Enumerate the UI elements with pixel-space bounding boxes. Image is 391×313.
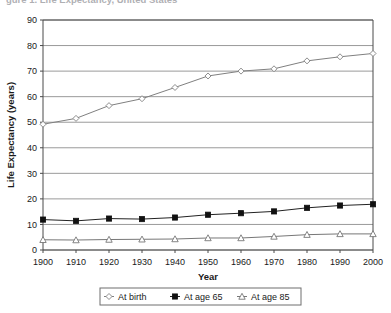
data-point-marker: [304, 58, 310, 64]
data-point-marker: [337, 203, 342, 208]
data-point-marker: [205, 212, 210, 217]
chart-legend: At birthAt age 65At age 85: [100, 288, 301, 305]
series-line: [43, 53, 373, 124]
y-tick-label: 60: [27, 92, 37, 102]
y-tick-label: 80: [27, 41, 37, 51]
y-axis-title: Life Expectancy (years): [5, 82, 16, 188]
x-tick-label: 1940: [165, 257, 185, 267]
series-at-birth: [40, 50, 376, 127]
data-point-marker: [73, 218, 78, 223]
x-tick-label: 1960: [231, 257, 251, 267]
axis-titles-group: Life Expectancy (years)Year: [5, 82, 218, 282]
data-point-marker: [370, 202, 375, 207]
y-tick-label: 40: [27, 143, 37, 153]
data-series-group: [40, 50, 376, 242]
x-axis-title: Year: [198, 271, 218, 282]
data-point-marker: [106, 216, 111, 221]
chart-svg: 0102030405060708090 19001910192019301940…: [0, 0, 391, 313]
y-tick-label: 10: [27, 220, 37, 230]
data-point-marker: [238, 68, 244, 74]
legend-label: At age 65: [184, 292, 223, 302]
data-point-marker: [271, 209, 276, 214]
data-point-marker: [238, 211, 243, 216]
data-point-marker: [370, 50, 376, 56]
data-point-marker: [172, 294, 177, 299]
x-tick-label: 1920: [99, 257, 119, 267]
y-tick-label: 90: [27, 15, 37, 25]
life-expectancy-chart: gure 1. Life Expectancy, United States 0…: [0, 0, 391, 313]
data-point-marker: [139, 216, 144, 221]
series-at-age-85: [40, 231, 376, 243]
x-tick-label: 1910: [66, 257, 86, 267]
x-tick-label: 1900: [33, 257, 53, 267]
legend-label: At age 85: [251, 292, 290, 302]
y-tick-label: 0: [32, 245, 37, 255]
legend-label: At birth: [118, 292, 147, 302]
y-tick-label: 50: [27, 117, 37, 127]
data-point-marker: [172, 84, 178, 90]
x-tick-label: 2000: [363, 257, 383, 267]
data-point-marker: [106, 103, 112, 109]
x-axis-ticks: 1900191019201930194019501960197019801990…: [33, 250, 383, 267]
data-point-marker: [205, 73, 211, 79]
series-at-age-65: [40, 202, 375, 224]
y-tick-label: 30: [27, 169, 37, 179]
data-point-marker: [40, 217, 45, 222]
x-tick-label: 1990: [330, 257, 350, 267]
x-tick-label: 1930: [132, 257, 152, 267]
y-tick-label: 20: [27, 194, 37, 204]
x-tick-label: 1970: [264, 257, 284, 267]
data-point-marker: [172, 215, 177, 220]
data-point-marker: [73, 115, 79, 121]
data-point-marker: [337, 54, 343, 60]
y-tick-label: 70: [27, 66, 37, 76]
x-tick-label: 1980: [297, 257, 317, 267]
x-tick-label: 1950: [198, 257, 218, 267]
data-point-marker: [304, 205, 309, 210]
